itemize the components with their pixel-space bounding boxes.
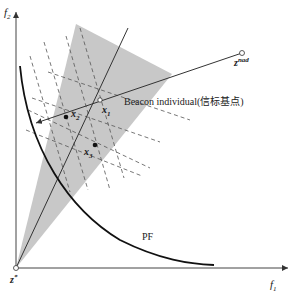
beacon-point-marker — [98, 98, 102, 102]
ideal-point-label: z* — [9, 273, 18, 285]
beacon-annotation: Beacon individual(信标基点) — [124, 95, 244, 108]
x-axis-label: f1 — [270, 278, 277, 293]
objective-space-plot: f2 f1 z* znad x1 x2 x3 Beacon individual… — [0, 0, 297, 297]
nadir-point-marker — [240, 51, 245, 56]
diagram-canvas: f2 f1 z* znad x1 x2 x3 Beacon individual… — [0, 0, 297, 297]
x2-point-marker — [64, 115, 69, 120]
pareto-front-label: PF — [142, 231, 154, 242]
ideal-point-marker — [14, 266, 19, 271]
nadir-point-label: znad — [233, 56, 249, 68]
y-axis-label: f2 — [4, 6, 11, 21]
x3-point-marker — [93, 143, 98, 148]
